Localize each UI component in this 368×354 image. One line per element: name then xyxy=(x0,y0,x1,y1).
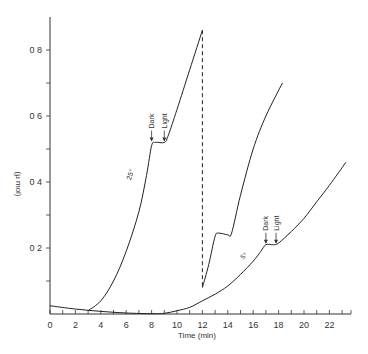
x-tick-label: 0 xyxy=(47,320,52,330)
annotation-label: Light xyxy=(273,216,281,231)
annotation-label: Light xyxy=(161,113,169,128)
chart: 02468101214161820220 20 40 60 8 25°5°Dar… xyxy=(0,0,368,354)
x-tick-label: 12 xyxy=(197,320,207,330)
y-tick-label: 0 4 xyxy=(29,177,42,187)
x-tick-label: 20 xyxy=(299,320,309,330)
arrow-head-icon xyxy=(274,240,278,244)
y-tick-label: 0 8 xyxy=(29,45,42,55)
x-tick-label: 6 xyxy=(124,320,129,330)
y-tick-label: 0 2 xyxy=(29,243,42,253)
curve-label: 5° xyxy=(239,251,249,261)
series-line xyxy=(88,30,202,311)
annotation-label: Dark xyxy=(148,113,155,128)
arrow-head-icon xyxy=(150,138,154,142)
y-tick-label: 0 6 xyxy=(29,111,42,121)
series-group xyxy=(50,30,346,314)
x-tick-label: 16 xyxy=(248,320,258,330)
x-tick-label: 4 xyxy=(98,320,103,330)
x-tick-label: 14 xyxy=(223,320,233,330)
x-axis-title: Time (min) xyxy=(178,331,216,340)
series-line xyxy=(50,162,346,314)
x-tick-label: 8 xyxy=(149,320,154,330)
x-tick-label: 22 xyxy=(324,320,334,330)
x-tick-label: 2 xyxy=(73,320,78,330)
axes: 02468101214161820220 20 40 60 8 xyxy=(29,17,351,330)
curve-label: 25° xyxy=(125,168,135,181)
x-tick-label: 10 xyxy=(172,320,182,330)
y-axis-title: (µ mol) xyxy=(14,171,23,196)
arrow-head-icon xyxy=(264,240,268,244)
x-tick-label: 18 xyxy=(274,320,284,330)
annotation-label: Dark xyxy=(262,216,269,231)
